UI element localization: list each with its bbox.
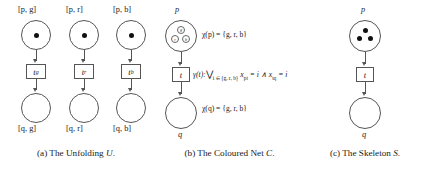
colour-token-b: b — [182, 35, 190, 43]
caption-symbol: U — [106, 148, 113, 158]
place-label-p-r: [p, r] — [66, 5, 83, 14]
arrowhead-icon — [178, 62, 182, 66]
token-dot — [363, 28, 368, 33]
place-q-b — [116, 93, 146, 123]
token-dot — [129, 33, 134, 38]
place-p — [349, 20, 381, 52]
caption-suffix: . — [272, 148, 274, 158]
transition-t-g: tg — [26, 64, 46, 79]
colour-token-r: r — [171, 35, 179, 43]
guard-body-3: = i — [276, 70, 287, 79]
caption-prefix: (c) The Skeleton — [330, 148, 393, 158]
annotation-colour-q: χ(q) = {g, r, b} — [202, 104, 247, 113]
place-label-p-g: [p, g] — [18, 5, 36, 14]
place-q-g — [21, 93, 51, 123]
place-p — [165, 20, 197, 52]
panel-unfolding: [p, g] tg [q, g] [p, r] tr [q, r] [p, b] — [0, 0, 152, 170]
arrowhead-icon — [128, 59, 132, 63]
arrowhead-icon — [362, 92, 366, 96]
caption-prefix: (b) The Coloured Net — [185, 148, 266, 158]
token-dot — [34, 33, 39, 38]
place-label-q: q — [362, 130, 366, 139]
guard-head: γ(t): — [193, 70, 206, 79]
place-q-r — [69, 93, 99, 123]
token-dot — [368, 36, 373, 41]
arrowhead-icon — [81, 59, 85, 63]
transition-label: t — [180, 70, 182, 80]
caption-suffix: . — [398, 148, 400, 158]
panel-skeleton: p t q (c) The Skeleton S. — [307, 0, 423, 170]
arrowhead-icon — [178, 92, 182, 96]
transition-sub: r — [84, 69, 86, 75]
place-label-p: p — [361, 5, 365, 14]
token-dot — [82, 33, 87, 38]
guard-body-2: = i ∧ x — [248, 70, 272, 79]
caption-suffix: . — [113, 148, 115, 158]
place-label-p: p — [175, 5, 179, 14]
place-q — [349, 97, 381, 129]
figure-petri-net-triptych: [p, g] tg [q, g] [p, r] tr [q, r] [p, b] — [0, 0, 423, 170]
annotation-guard: γ(t):⋁i ∈ {g, r, b} xpt = i ∧ xtq = i — [193, 69, 287, 81]
panel-coloured-net: p g r b t q χ(p) = {g, r, b} γ(t):⋁i ∈ {… — [152, 0, 307, 170]
transition-t-r: tr — [74, 64, 94, 79]
place-label-q-b: [q, b] — [113, 124, 131, 133]
colour-token-g: g — [177, 26, 185, 34]
transition-sub: g — [36, 69, 39, 75]
guard-vee: ⋁ — [206, 69, 213, 79]
transition-t: t — [172, 67, 190, 82]
caption-prefix: (a) The Unfolding — [37, 148, 106, 158]
annotation-colour-p: χ(p) = {g, r, b} — [202, 30, 247, 39]
caption-skeleton: (c) The Skeleton S. — [307, 148, 423, 158]
arrowhead-icon — [128, 88, 132, 92]
token-dot — [357, 36, 362, 41]
arrowhead-icon — [362, 62, 366, 66]
place-label-p-b: [p, b] — [113, 5, 131, 14]
place-label-q: q — [178, 130, 182, 139]
arrowhead-icon — [33, 88, 37, 92]
guard-index: i ∈ {g, r, b} — [213, 75, 239, 81]
transition-sub: b — [131, 69, 134, 75]
place-label-q-g: [q, g] — [18, 124, 36, 133]
caption-coloured-net: (b) The Coloured Net C. — [152, 148, 307, 158]
caption-unfolding: (a) The Unfolding U. — [0, 148, 152, 158]
arrowhead-icon — [33, 59, 37, 63]
arrowhead-icon — [81, 88, 85, 92]
place-q — [165, 97, 197, 129]
place-label-q-r: [q, r] — [66, 124, 83, 133]
transition-label: t — [364, 70, 366, 80]
transition-t-b: tb — [121, 64, 141, 79]
transition-t: t — [356, 67, 374, 82]
